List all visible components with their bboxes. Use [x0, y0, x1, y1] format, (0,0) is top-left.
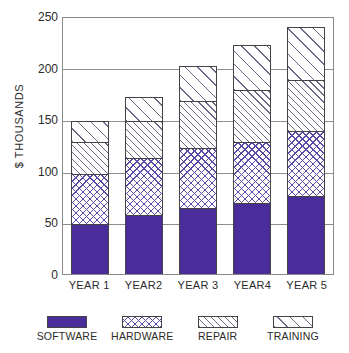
bar-year-5[interactable]: [287, 27, 325, 274]
y-tick-200: 200: [24, 64, 58, 74]
legend-label-software: SOFTWARE: [37, 330, 98, 342]
bar-year-3[interactable]: [179, 66, 217, 274]
y-tick-0: 0: [24, 270, 58, 280]
chart-legend: SOFTWARE HARDWARE REPAIR TRAINING: [30, 316, 330, 342]
bar-segment-software[interactable]: [72, 224, 108, 274]
plot-area: [62, 17, 334, 275]
x-label-year-3: YEAR 3: [171, 279, 225, 291]
legend-swatch-training: [273, 316, 313, 328]
bar-segment-training[interactable]: [288, 27, 324, 80]
legend-swatch-repair: [198, 316, 238, 328]
legend-swatch-hardware: [122, 316, 162, 328]
stacked-bar-chart: $ THOUSANDS 0 50 100 150 200 250 YEAR 1 …: [0, 0, 349, 353]
x-label-year-1: YEAR 1: [62, 279, 116, 291]
bar-segment-training[interactable]: [180, 66, 216, 101]
x-label-year-4: YEAR4: [225, 279, 279, 291]
legend-swatch-software: [47, 316, 87, 328]
legend-label-repair: REPAIR: [198, 330, 238, 342]
bar-segment-hardware[interactable]: [126, 158, 162, 215]
bar-segment-hardware[interactable]: [72, 174, 108, 225]
x-axis-tick-labels: YEAR 1 YEAR2 YEAR 3 YEAR4 YEAR 5: [62, 279, 334, 291]
bar-segment-training[interactable]: [126, 97, 162, 122]
bar-segment-repair[interactable]: [126, 121, 162, 158]
bar-segment-software[interactable]: [180, 208, 216, 274]
y-tick-100: 100: [24, 167, 58, 177]
bar-segment-repair[interactable]: [72, 142, 108, 174]
legend-item-hardware: HARDWARE: [105, 316, 179, 342]
legend-label-training: TRAINING: [267, 330, 319, 342]
bar-segment-software[interactable]: [234, 203, 270, 274]
y-tick-150: 150: [24, 115, 58, 125]
bar-group: [63, 18, 333, 274]
y-axis-tick-labels: 0 50 100 150 200 250: [20, 0, 58, 353]
bar-year2[interactable]: [125, 97, 163, 275]
bar-segment-software[interactable]: [126, 215, 162, 274]
bar-segment-hardware[interactable]: [234, 142, 270, 203]
legend-item-training: TRAINING: [256, 316, 330, 342]
x-label-year-2: YEAR2: [116, 279, 170, 291]
bar-segment-software[interactable]: [288, 196, 324, 274]
bar-segment-hardware[interactable]: [288, 131, 324, 196]
x-label-year-5: YEAR 5: [280, 279, 334, 291]
legend-item-repair: REPAIR: [181, 316, 255, 342]
bar-segment-training[interactable]: [234, 45, 270, 90]
bar-segment-repair[interactable]: [180, 101, 216, 148]
bar-segment-repair[interactable]: [234, 90, 270, 142]
bar-segment-training[interactable]: [72, 121, 108, 142]
y-tick-50: 50: [24, 218, 58, 228]
bar-segment-repair[interactable]: [288, 80, 324, 131]
bar-segment-hardware[interactable]: [180, 148, 216, 208]
legend-item-software: SOFTWARE: [30, 316, 104, 342]
bar-year4[interactable]: [233, 45, 271, 274]
y-tick-250: 250: [24, 12, 58, 22]
legend-label-hardware: HARDWARE: [111, 330, 173, 342]
bar-year-1[interactable]: [71, 121, 109, 274]
